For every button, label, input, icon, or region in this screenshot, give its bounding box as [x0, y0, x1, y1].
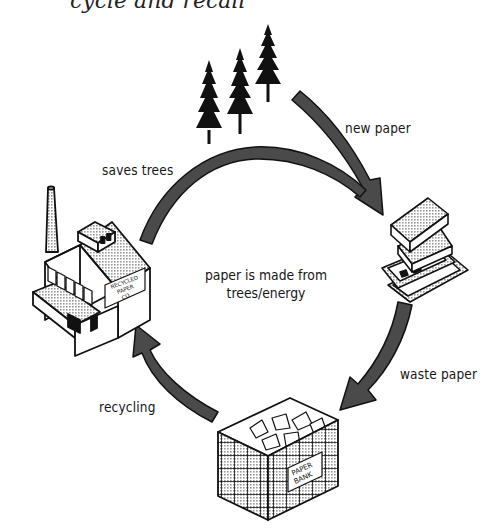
edge-label-waste-paper: waste paper [400, 366, 477, 382]
pine-trees-icon [196, 24, 281, 144]
center-caption: paper is made from trees/energy [202, 266, 331, 302]
factory-icon: RECYCLED PAPER CO. [33, 187, 150, 357]
center-caption-line1: paper is made from [202, 266, 331, 284]
center-caption-line2: trees/energy [202, 284, 331, 302]
arrows [133, 91, 412, 422]
saves-trees-arrow [140, 147, 366, 244]
paper-bank-bin-icon: PAPER BANK [218, 398, 338, 520]
waste-paper-arrow [340, 302, 412, 410]
book-stack-icon [382, 198, 468, 302]
edge-label-saves-trees: saves trees [102, 162, 173, 178]
edge-label-recycling: recycling [99, 399, 156, 415]
new-paper-arrow [292, 91, 383, 215]
edge-label-new-paper: new paper [345, 120, 411, 136]
